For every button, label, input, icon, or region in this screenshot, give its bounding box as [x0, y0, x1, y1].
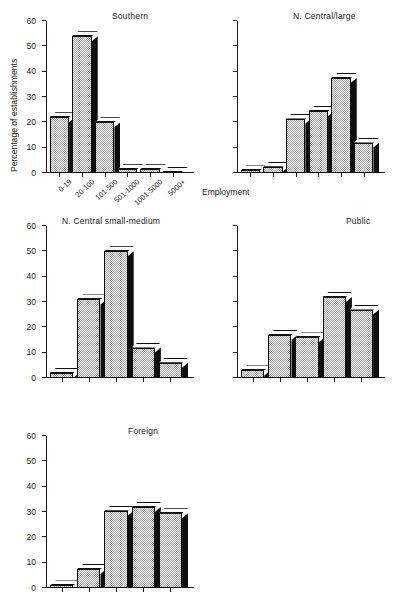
- x-tick: [361, 378, 362, 382]
- bar-front-face: [354, 143, 373, 173]
- bar-front-face: [132, 507, 155, 588]
- bar: [77, 299, 100, 378]
- x-tick: [116, 588, 117, 592]
- plot-area-public: [237, 226, 385, 378]
- x-tick: [318, 173, 319, 177]
- y-tick-label: 0: [31, 583, 36, 592]
- y-tick: 0: [42, 587, 46, 588]
- y-tick-label: 30: [27, 297, 36, 306]
- y-axis-line: [46, 21, 47, 173]
- y-tick: [233, 225, 237, 226]
- y-tick: 20: [42, 121, 46, 122]
- y-axis-line: [46, 226, 47, 378]
- y-tick: 10: [42, 147, 46, 148]
- panel-n-central-small-medium: N. Central small-medium 0102030405060: [0, 205, 201, 395]
- x-tick: [296, 173, 297, 177]
- y-tick: [233, 377, 237, 378]
- y-axis-line: [237, 21, 238, 173]
- y-tick: 30: [42, 511, 46, 512]
- y-tick: 10: [42, 352, 46, 353]
- plot-area-n-central-large: [237, 21, 385, 173]
- x-tick-label: 5000+: [166, 178, 186, 197]
- x-tick: [341, 173, 342, 177]
- bar-front-face: [159, 513, 182, 588]
- y-tick-label: 60: [27, 16, 36, 25]
- x-tick-label: 20-100: [74, 178, 96, 199]
- x-tick: [170, 378, 171, 382]
- y-tick-label: 0: [31, 168, 36, 177]
- x-tick: [253, 378, 254, 382]
- bar: [159, 513, 182, 588]
- bar-side-face: [114, 122, 120, 173]
- x-tick: [105, 173, 106, 177]
- panel-n-central-large: N. Central/large: [201, 0, 402, 200]
- bar: [72, 36, 91, 173]
- bar: [241, 370, 264, 378]
- bar-front-face: [77, 299, 100, 378]
- y-tick-label: 30: [27, 507, 36, 516]
- bar: [268, 335, 291, 378]
- bar: [95, 122, 114, 173]
- panel-title-public: Public: [346, 216, 370, 226]
- x-tick: [143, 588, 144, 592]
- y-axis-label: Percentage of establishments: [9, 59, 19, 172]
- bar-front-face: [295, 337, 318, 378]
- bar: [354, 143, 373, 173]
- x-tick: [273, 173, 274, 177]
- bar-front-face: [323, 297, 346, 378]
- x-tick: [127, 173, 128, 177]
- x-tick: [250, 173, 251, 177]
- x-tick: [364, 173, 365, 177]
- bar-front-face: [104, 251, 127, 378]
- y-tick-label: 40: [27, 67, 36, 76]
- y-tick: 50: [42, 45, 46, 46]
- bar: [295, 337, 318, 378]
- y-tick-label: 20: [27, 533, 36, 542]
- bar: [309, 111, 328, 173]
- y-tick-label: 60: [27, 221, 36, 230]
- x-tick: [173, 173, 174, 177]
- bar-front-face: [50, 117, 69, 173]
- figure-canvas: Southern Percentage of establishments 01…: [0, 0, 402, 598]
- x-tick: [89, 378, 90, 382]
- y-tick: [233, 250, 237, 251]
- y-tick: 40: [42, 486, 46, 487]
- x-tick: [150, 173, 151, 177]
- y-tick: 20: [42, 536, 46, 537]
- y-tick-label: 30: [27, 92, 36, 101]
- x-tick: [170, 588, 171, 592]
- bar-front-face: [241, 370, 264, 378]
- x-tick: [59, 173, 60, 177]
- y-tick: [233, 45, 237, 46]
- y-tick: 30: [42, 96, 46, 97]
- plot-area-n-central-small-medium: 0102030405060: [46, 226, 194, 378]
- y-tick: 60: [42, 435, 46, 436]
- y-tick-label: 40: [27, 482, 36, 491]
- y-tick-label: 20: [27, 118, 36, 127]
- bar-front-face: [95, 122, 114, 173]
- x-tick: [62, 588, 63, 592]
- x-tick: [82, 173, 83, 177]
- plot-area-southern: 01020304050600-1920-100101-500501-100010…: [46, 21, 194, 173]
- x-tick: [307, 378, 308, 382]
- bar-front-face: [350, 310, 373, 378]
- panel-title-foreign: Foreign: [128, 426, 158, 436]
- x-tick-label: 0-19: [57, 178, 73, 193]
- y-tick: 60: [42, 225, 46, 226]
- panel-title-n-central-small-medium: N. Central small-medium: [62, 216, 160, 226]
- bar: [159, 363, 182, 378]
- bar-side-face: [373, 310, 379, 378]
- y-tick: [233, 20, 237, 21]
- y-tick: [233, 276, 237, 277]
- y-axis-line: [46, 436, 47, 588]
- y-axis-line: [237, 226, 238, 378]
- bar: [286, 119, 305, 173]
- y-tick: 50: [42, 250, 46, 251]
- y-tick: [233, 96, 237, 97]
- y-tick-label: 40: [27, 272, 36, 281]
- bar-front-face: [268, 335, 291, 378]
- bar-side-face: [182, 513, 188, 588]
- bar: [104, 511, 127, 588]
- y-tick: 30: [42, 301, 46, 302]
- bar: [104, 251, 127, 378]
